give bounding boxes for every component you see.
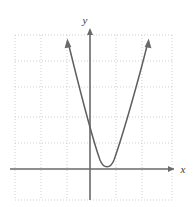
graph-figure: y x	[0, 0, 195, 207]
figure-background	[0, 0, 195, 207]
coordinate-plane-svg: y x	[0, 0, 195, 207]
y-axis-label: y	[82, 14, 88, 26]
x-axis-label: x	[180, 163, 186, 175]
